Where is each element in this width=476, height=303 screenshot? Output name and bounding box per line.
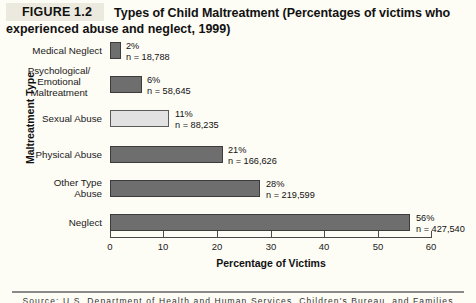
x-axis-tick-label: 60	[426, 241, 437, 252]
category-label-neglect: Neglect	[69, 217, 102, 228]
x-axis-tick-label: 30	[266, 241, 277, 252]
figure-title-line2: experienced abuse and neglect, 1999)	[6, 22, 470, 37]
bar-value-medical-neglect: 2%n = 18,788	[126, 41, 170, 62]
bar-psychological-emotional-maltreatment[interactable]	[110, 76, 142, 93]
bar-other-type-abuse[interactable]	[110, 180, 260, 197]
category-label-sexual-abuse: Sexual Abuse	[42, 113, 102, 124]
bar-n-neglect: n = 427,540	[416, 224, 465, 234]
bar-chart: Maltreatment Type Medical Neglect 2%n = …	[0, 38, 476, 288]
x-axis-title: Percentage of Victims	[110, 257, 432, 269]
bar-pct-other-type-abuse: 28%	[266, 179, 284, 189]
bar-value-other-type-abuse: 28%n = 219,599	[266, 179, 315, 200]
category-label-medical-neglect: Medical Neglect	[32, 45, 102, 56]
figure-title-line1: Types of Child Maltreatment (Percentages…	[114, 6, 450, 20]
bar-pct-sexual-abuse: 11%	[175, 109, 193, 119]
x-axis-tick-label: 50	[373, 241, 384, 252]
bar-value-physical-abuse: 21%n = 166,626	[228, 145, 277, 166]
figure-header: FIGURE 1.2Types of Child Maltreatment (P…	[0, 0, 476, 37]
bar-pct-physical-abuse: 21%	[228, 145, 246, 155]
x-axis-tick-label: 40	[319, 241, 330, 252]
x-axis-tick	[431, 231, 432, 238]
bar-sexual-abuse[interactable]	[110, 110, 169, 127]
x-axis-tick	[163, 231, 164, 238]
bar-n-psychological-emotional-maltreatment: n = 58,645	[147, 86, 191, 96]
x-axis-tick	[324, 231, 325, 238]
bar-value-psychological-emotional-maltreatment: 6%n = 58,645	[147, 75, 191, 96]
bar-n-other-type-abuse: n = 219,599	[266, 190, 315, 200]
bar-physical-abuse[interactable]	[110, 146, 223, 163]
category-label-other-type-abuse: Other Type Abuse	[54, 177, 102, 199]
x-axis-tick	[271, 231, 272, 238]
x-axis-tick	[217, 231, 218, 238]
figure-number-badge: FIGURE 1.2	[6, 3, 104, 21]
bar-n-physical-abuse: n = 166,626	[228, 156, 277, 166]
x-axis-tick-label: 10	[158, 241, 169, 252]
x-axis-tick	[110, 231, 111, 238]
x-axis-tick-label: 0	[107, 241, 112, 252]
bar-value-sexual-abuse: 11%n = 88,235	[175, 109, 219, 130]
bar-pct-psychological-emotional-maltreatment: 6%	[147, 75, 160, 85]
category-label-physical-abuse: Physical Abuse	[36, 149, 102, 160]
footer-source-note: Source: U.S. Department of Health and Hu…	[12, 296, 464, 303]
figure-container: FIGURE 1.2Types of Child Maltreatment (P…	[0, 0, 476, 303]
bar-pct-neglect: 56%	[416, 213, 434, 223]
footer-divider	[12, 291, 464, 293]
bar-n-sexual-abuse: n = 88,235	[175, 120, 219, 130]
bar-value-neglect: 56%n = 427,540	[416, 213, 465, 234]
x-axis-tick-label: 20	[212, 241, 223, 252]
bar-medical-neglect[interactable]	[110, 42, 121, 59]
bar-n-medical-neglect: n = 18,788	[126, 52, 170, 62]
bar-pct-medical-neglect: 2%	[126, 41, 139, 51]
category-label-psychological-emotional-maltreatment: Psychological/ Emotional Maltreatment	[16, 65, 102, 98]
bar-neglect[interactable]	[110, 214, 410, 231]
x-axis-tick	[378, 231, 379, 238]
